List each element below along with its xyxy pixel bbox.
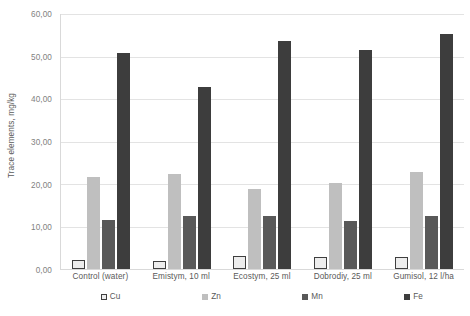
- bar-fe[interactable]: [278, 41, 291, 269]
- bar-mn[interactable]: [263, 216, 276, 269]
- x-axis-category-label: Control (water): [60, 272, 141, 281]
- bar-mn[interactable]: [425, 216, 438, 269]
- bar-group: [383, 14, 464, 269]
- bar-mn[interactable]: [344, 221, 357, 269]
- plot-area: [60, 14, 464, 270]
- legend-label: Cu: [110, 292, 120, 301]
- y-axis-ticks: 60,0050,0040,0030,0020,0010,000,00: [22, 14, 56, 270]
- y-axis-tick-label: 40,00: [31, 95, 52, 104]
- x-axis-category-label: Ecostym, 25 ml: [222, 272, 303, 281]
- bar-zn[interactable]: [329, 183, 342, 269]
- bar-groups: [61, 14, 464, 269]
- y-axis-tick-label: 0,00: [36, 266, 52, 275]
- plot-wrapper: 60,0050,0040,0030,0020,0010,000,00: [22, 14, 466, 270]
- bar-fe[interactable]: [117, 53, 130, 269]
- legend-swatch-cu-icon: [101, 294, 107, 300]
- bar-group: [142, 14, 223, 269]
- y-axis-tick-label: 20,00: [31, 180, 52, 189]
- x-axis-category-label: Gumisol, 12 l/ha: [383, 272, 464, 281]
- x-axis-labels: Control (water)Emistym, 10 mlEcostym, 25…: [60, 272, 464, 281]
- y-axis-tick-label: 10,00: [31, 223, 52, 232]
- bar-cu[interactable]: [72, 260, 85, 269]
- bar-cu[interactable]: [233, 256, 246, 269]
- bar-zn[interactable]: [168, 174, 181, 269]
- y-axis-tick-label: 50,00: [31, 52, 52, 61]
- bar-cu[interactable]: [395, 257, 408, 269]
- bar-group: [222, 14, 303, 269]
- bar-zn[interactable]: [87, 177, 100, 269]
- bar-zn[interactable]: [410, 172, 423, 269]
- bar-zn[interactable]: [248, 189, 261, 269]
- bar-mn[interactable]: [183, 216, 196, 269]
- x-axis-category-label: Dobrodiy, 25 ml: [302, 272, 383, 281]
- bar-cu[interactable]: [153, 261, 166, 270]
- y-axis-title-label: Trace elements, mg/kg: [8, 92, 17, 177]
- chart-legend: CuZnMnFe: [60, 292, 464, 301]
- bar-fe[interactable]: [198, 87, 211, 269]
- bar-mn[interactable]: [102, 220, 115, 269]
- legend-swatch-fe-icon: [404, 294, 410, 300]
- bar-fe[interactable]: [359, 50, 372, 269]
- x-axis-category-label: Emistym, 10 ml: [141, 272, 222, 281]
- y-axis-title: Trace elements, mg/kg: [2, 0, 22, 270]
- bar-cu[interactable]: [314, 257, 327, 269]
- legend-item-cu[interactable]: Cu: [60, 292, 161, 301]
- legend-label: Fe: [413, 292, 423, 301]
- y-axis-tick-label: 30,00: [31, 138, 52, 147]
- legend-swatch-zn-icon: [202, 294, 208, 300]
- y-axis-tick-label: 60,00: [31, 10, 52, 19]
- legend-label: Mn: [311, 292, 322, 301]
- legend-label: Zn: [211, 292, 221, 301]
- legend-item-fe[interactable]: Fe: [363, 292, 464, 301]
- legend-item-mn[interactable]: Mn: [262, 292, 363, 301]
- bar-group: [61, 14, 142, 269]
- bar-fe[interactable]: [440, 34, 453, 269]
- bar-group: [303, 14, 384, 269]
- legend-swatch-mn-icon: [302, 294, 308, 300]
- bar-chart: Trace elements, mg/kg 60,0050,0040,0030,…: [0, 0, 470, 316]
- legend-item-zn[interactable]: Zn: [161, 292, 262, 301]
